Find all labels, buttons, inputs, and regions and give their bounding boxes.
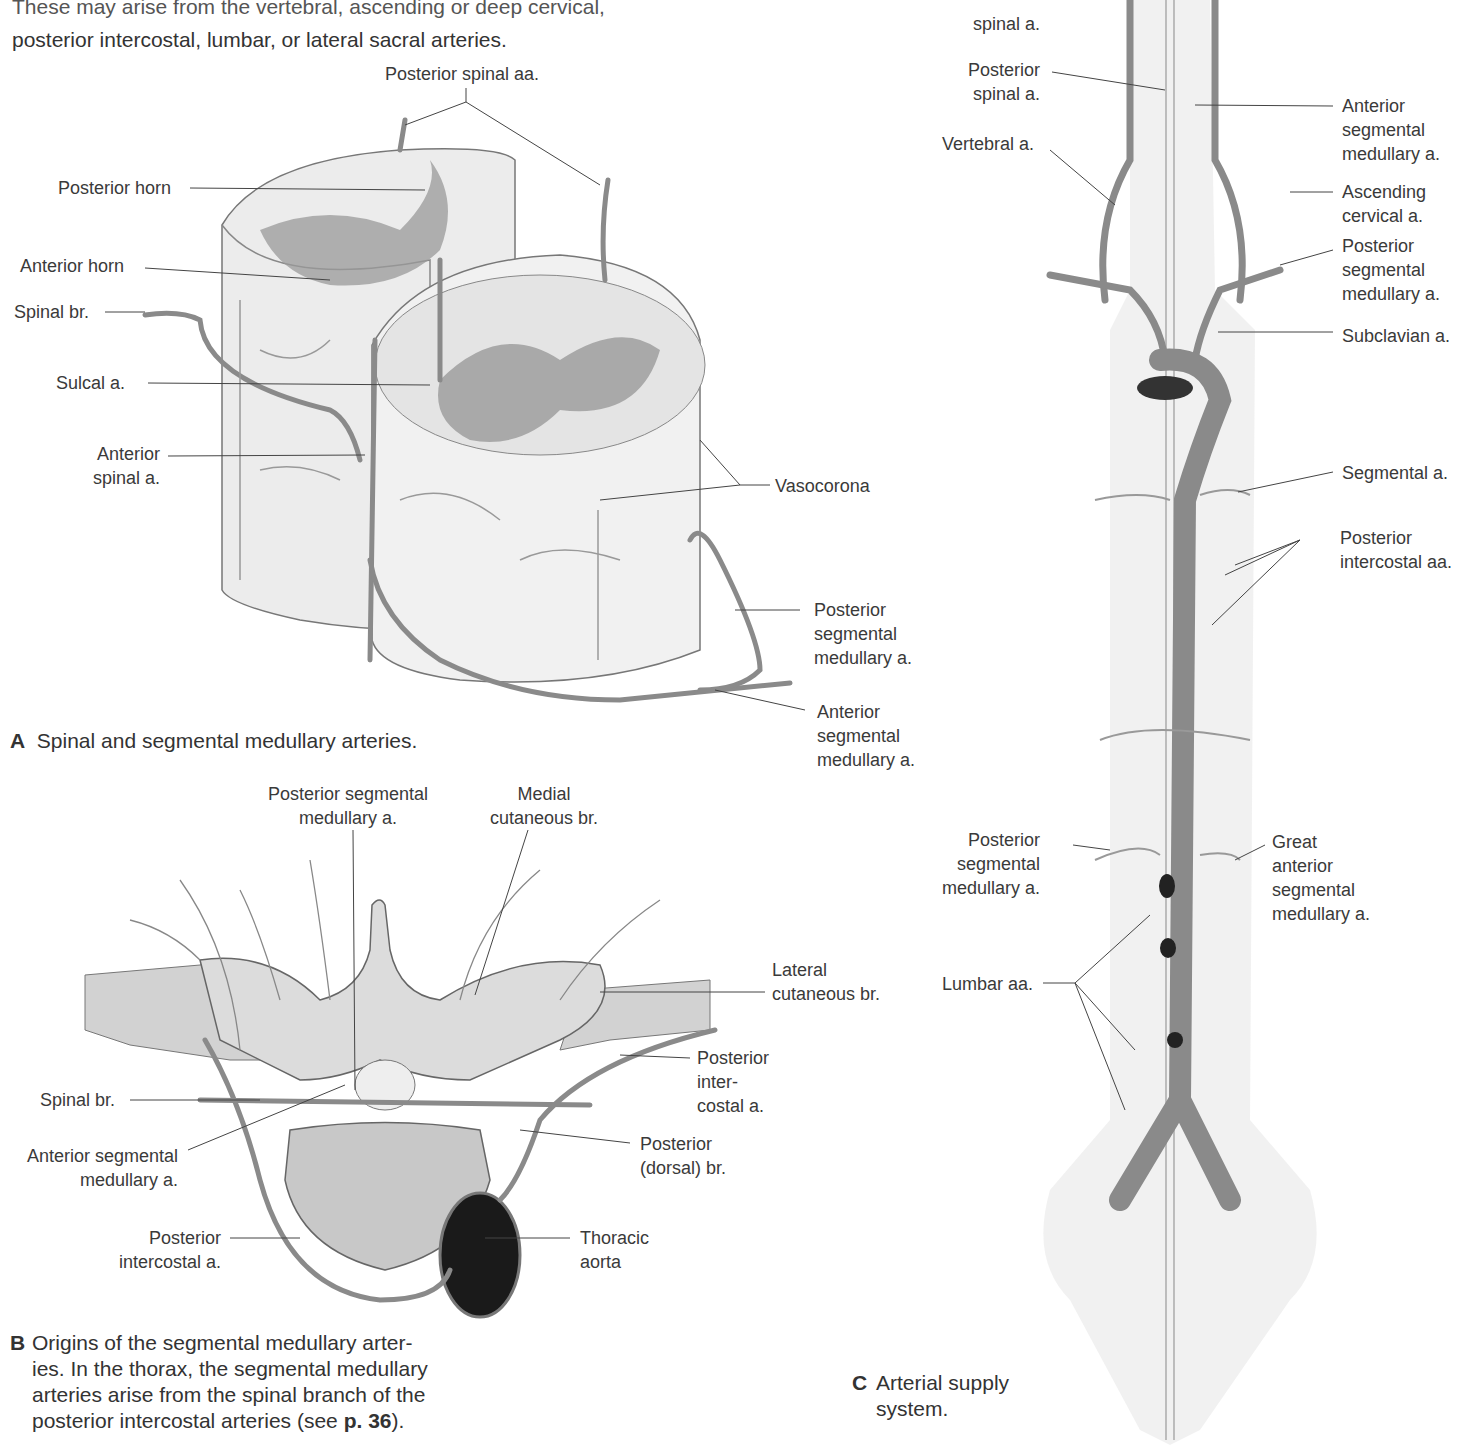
label-c-posterior-segmental-medullary-a-top: Posterior segmental medullary a. — [1342, 234, 1440, 306]
label-a-posterior-horn: Posterior horn — [58, 176, 171, 200]
label-a-posterior-spinal-aa: Posterior spinal aa. — [385, 62, 539, 86]
label-a-vasocorona: Vasocorona — [775, 474, 870, 498]
label-c-vertebral-a: Vertebral a. — [942, 132, 1034, 156]
label-a-posterior-segmental-medullary-a: Posterior segmental medullary a. — [814, 598, 912, 670]
figure-b-letter: B — [10, 1330, 25, 1356]
figure-a-caption-text: Spinal and segmental medullary arteries. — [37, 729, 418, 752]
figure-c-letter: C — [852, 1370, 867, 1396]
label-a-anterior-horn: Anterior horn — [20, 254, 124, 278]
label-b-posterior-segmental-medullary-a: Posterior segmental medullary a. — [268, 782, 428, 830]
label-b-posterior-intercostal-a-left: Posterior intercostal a. — [105, 1226, 221, 1274]
page-reference-link[interactable]: p. 36 — [344, 1409, 392, 1432]
label-c-great-anterior-segmental-medullary-a: Great anterior segmental medullary a. — [1272, 830, 1370, 926]
label-b-posterior-dorsal-br: Posterior (dorsal) br. — [640, 1132, 726, 1180]
label-c-lumbar-aa: Lumbar aa. — [942, 972, 1033, 996]
label-a-sulcal-a: Sulcal a. — [56, 371, 125, 395]
label-c-subclavian-a: Subclavian a. — [1342, 324, 1450, 348]
label-a-anterior-segmental-medullary-a: Anterior segmental medullary a. — [817, 700, 915, 772]
figure-c-caption: C Arterial supply system. — [852, 1370, 1009, 1422]
figure-b-caption-end: ). — [392, 1409, 405, 1432]
figure-a-caption: A Spinal and segmental medullary arterie… — [10, 728, 417, 754]
figure-b-caption-line-3: arteries arise from the spinal branch of… — [32, 1382, 428, 1408]
label-c-posterior-segmental-medullary-a-bottom: Posterior segmental medullary a. — [930, 828, 1040, 900]
figure-a-illustration — [145, 120, 790, 700]
figure-b-caption-line-1: Origins of the segmental medullary arter… — [32, 1330, 428, 1356]
label-b-spinal-br: Spinal br. — [40, 1088, 115, 1112]
figure-b-caption-line-2: ies. In the thorax, the segmental medull… — [32, 1356, 428, 1382]
label-c-anterior-spinal-a: spinal a. — [960, 12, 1040, 36]
figure-b-caption: B Origins of the segmental medullary art… — [10, 1330, 428, 1434]
label-b-anterior-segmental-medullary-a: Anterior segmental medullary a. — [8, 1144, 178, 1192]
label-b-posterior-intercostal-a-right: Posterior inter- costal a. — [697, 1046, 769, 1118]
label-c-posterior-intercostal-aa: Posterior intercostal aa. — [1340, 526, 1452, 574]
figure-c-caption-line-2: system. — [876, 1396, 1009, 1422]
label-b-thoracic-aorta: Thoracic aorta — [580, 1226, 649, 1274]
label-c-posterior-spinal-a: Posterior spinal a. — [950, 58, 1040, 106]
figure-c-caption-line-1: Arterial supply — [876, 1370, 1009, 1396]
figure-b-caption-line-4: posterior intercostal arteries (see — [32, 1409, 344, 1432]
figure-c-illustration — [1043, 0, 1316, 1445]
label-a-anterior-spinal-a: Anterior spinal a. — [80, 442, 160, 490]
label-b-lateral-cutaneous-br: Lateral cutaneous br. — [772, 958, 880, 1006]
label-a-spinal-br: Spinal br. — [14, 300, 89, 324]
label-c-segmental-a: Segmental a. — [1342, 461, 1448, 485]
figure-a-letter: A — [10, 729, 25, 752]
label-b-medial-cutaneous-br: Medial cutaneous br. — [490, 782, 598, 830]
label-c-anterior-segmental-medullary-a: Anterior segmental medullary a. — [1342, 94, 1440, 166]
label-c-ascending-cervical-a: Ascending cervical a. — [1342, 180, 1426, 228]
